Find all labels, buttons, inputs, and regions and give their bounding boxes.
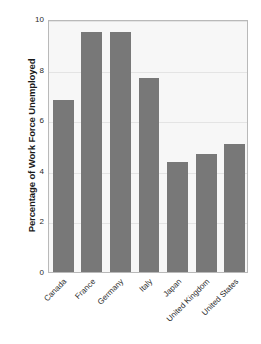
x-axis-tick-labels: CanadaFranceGermanyItalyJapanUnited King… [0, 0, 261, 344]
bar-chart-figure: Percentage of Work Force Unemployed 0246… [0, 0, 261, 344]
